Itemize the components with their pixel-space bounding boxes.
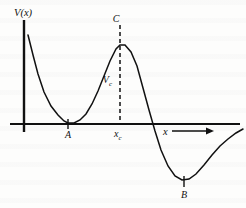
label-point-C: C <box>113 13 120 24</box>
potential-energy-plot: V(x) C Vc A xc x B <box>0 0 246 208</box>
label-point-B: B <box>181 189 187 200</box>
y-axis-label: V(x) <box>14 7 33 19</box>
label-point-A: A <box>64 129 72 140</box>
potential-curve <box>28 35 243 180</box>
x-axis-arrow-head <box>206 128 214 135</box>
label-critical-x: xc <box>113 128 122 142</box>
label-barrier-height: Vc <box>103 74 113 88</box>
label-critical-x-subscript: c <box>118 134 122 142</box>
label-barrier-height-subscript: c <box>109 80 113 88</box>
x-axis-label: x <box>162 126 168 137</box>
figure-root: V(x) C Vc A xc x B <box>0 0 246 208</box>
